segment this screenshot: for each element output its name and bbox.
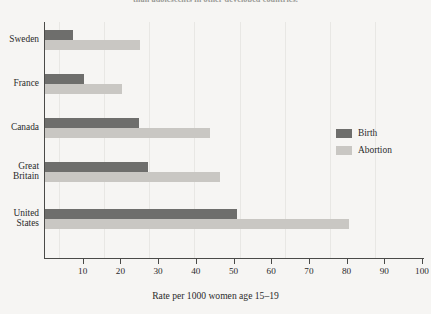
legend-label-abortion: Abortion (358, 145, 392, 155)
legend-item-abortion[interactable]: Abortion (336, 143, 392, 157)
bar-birth-france (44, 74, 84, 84)
chart-legend: Birth Abortion (336, 126, 392, 160)
x-tick-label-50: 50 (221, 266, 247, 276)
x-tick-label-100: 100 (409, 266, 431, 276)
bar-abortion-canada (44, 128, 210, 138)
y-axis-label-line: Canada (0, 122, 39, 133)
legend-swatch-birth (336, 129, 352, 138)
y-axis-label-line: France (0, 78, 39, 89)
x-tick-label-80: 80 (334, 266, 360, 276)
x-tick-mark-20 (120, 259, 121, 264)
y-axis-label-sweden: Sweden (0, 34, 39, 45)
y-axis-label-canada: Canada (0, 122, 39, 133)
x-tick-label-20: 20 (107, 266, 133, 276)
x-tick-mark-80 (347, 259, 348, 264)
x-tick-label-40: 40 (183, 266, 209, 276)
y-axis-label-united-states: UnitedStates (0, 208, 39, 229)
x-tick-label-90: 90 (371, 266, 397, 276)
bar-birth-great-britain (44, 162, 148, 172)
bar-birth-united-states (44, 209, 237, 219)
bar-abortion-great-britain (44, 172, 220, 182)
bar-abortion-sweden (44, 40, 140, 50)
bar-birth-canada (44, 118, 139, 128)
y-axis-label-great-britain: GreatBritain (0, 161, 39, 182)
x-tick-label-30: 30 (145, 266, 171, 276)
y-axis-label-line: Britain (0, 171, 39, 182)
x-axis-title: Rate per 1000 women age 15–19 (0, 290, 431, 301)
legend-item-birth[interactable]: Birth (336, 126, 392, 140)
y-axis-label-line: Great (0, 161, 39, 172)
legend-label-birth: Birth (358, 128, 377, 138)
y-axis-label-line: States (0, 218, 39, 229)
legend-swatch-abortion (336, 146, 352, 155)
x-tick-mark-10 (83, 259, 84, 264)
y-axis-label-line: Sweden (0, 34, 39, 45)
x-tick-label-70: 70 (296, 266, 322, 276)
x-tick-label-60: 60 (258, 266, 284, 276)
x-tick-mark-100 (422, 259, 423, 264)
bar-abortion-united-states (44, 219, 349, 229)
bar-birth-sweden (44, 30, 73, 40)
bar-chart: 102030405060708090100 SwedenFranceCanada… (0, 0, 431, 314)
x-tick-label-10: 10 (70, 266, 96, 276)
x-tick-mark-70 (309, 259, 310, 264)
y-axis-label-france: France (0, 78, 39, 89)
x-tick-mark-90 (384, 259, 385, 264)
y-axis-label-line: United (0, 208, 39, 219)
x-tick-mark-30 (158, 259, 159, 264)
x-tick-mark-50 (234, 259, 235, 264)
bar-abortion-france (44, 84, 122, 94)
y-axis-line (44, 22, 45, 259)
x-tick-mark-60 (271, 259, 272, 264)
x-tick-mark-40 (196, 259, 197, 264)
